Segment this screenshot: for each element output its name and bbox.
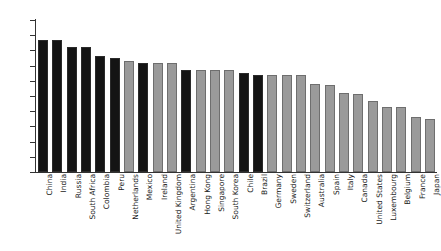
x-axis-label-text: Brazil — [261, 174, 269, 195]
x-axis-label: Sweden — [290, 144, 298, 174]
x-axis-label-text: United States — [376, 174, 384, 225]
x-axis-label-text: Hong Kong — [204, 174, 212, 215]
x-axis-label-text: Russia — [75, 174, 83, 198]
y-axis-tick-label-wrap: 100 — [0, 20, 35, 21]
y-axis-tick-label-wrap: 10 — [0, 157, 35, 158]
y-axis-tick-label-wrap: 80 — [0, 50, 35, 51]
x-axis-label: Argentina — [189, 137, 197, 174]
x-axis-label-text: China — [46, 174, 54, 195]
y-axis-tick-label-wrap: 0 — [0, 172, 35, 173]
x-axis-label-text: Germany — [275, 174, 283, 208]
x-axis-label: Colombia — [103, 139, 111, 174]
bar — [52, 40, 62, 172]
y-axis-tick-label-wrap: 20 — [0, 142, 35, 143]
x-axis-label-text: Spain — [333, 174, 341, 195]
x-axis-label: Japan — [433, 153, 441, 174]
x-axis-label: Italy — [347, 158, 355, 174]
x-axis-label-text: United Kingdom — [175, 174, 183, 234]
x-axis-label-text: Switzerland — [304, 174, 312, 218]
x-axis-label-text: India — [60, 174, 68, 192]
x-axis-label-text: Ireland — [161, 174, 169, 200]
y-axis-tick-label-wrap: 60 — [0, 81, 35, 82]
x-axis-label-text: South Africa — [89, 174, 97, 220]
x-axis-label: Canada — [361, 145, 369, 174]
x-axis-label-text: Italy — [347, 174, 355, 190]
y-axis-tick-label-wrap: 30 — [0, 126, 35, 127]
x-axis-label-text: Sweden — [290, 174, 298, 204]
x-axis-label-text: Belgium — [404, 174, 412, 205]
x-axis-label: Australia — [318, 141, 326, 174]
y-axis-tick-label-wrap: 40 — [0, 111, 35, 112]
x-axis-label-text: Netherlands — [132, 174, 140, 220]
x-axis-label: Mexico — [146, 148, 154, 174]
x-axis-label: United Kingdom — [175, 114, 183, 174]
x-axis-label-text: Singapore — [218, 174, 226, 212]
x-axis-label: South Korea — [232, 129, 240, 174]
x-axis-label: France — [419, 149, 427, 174]
x-axis-label-text: Mexico — [146, 174, 154, 200]
y-axis-tick-label-wrap: 90 — [0, 35, 35, 36]
x-axis-label: Netherlands — [132, 128, 140, 174]
x-axis-label-text: Colombia — [103, 174, 111, 209]
y-axis-tick-label-wrap: 70 — [0, 66, 35, 67]
x-axis-label-text: Peru — [118, 174, 126, 191]
x-axis-label-text: Luxembourg — [390, 174, 398, 221]
x-axis-label-text: Japan — [433, 174, 441, 195]
x-axis-label-text: South Korea — [232, 174, 240, 219]
bar-chart: 0102030405060708090100 ChinaIndiaRussiaS… — [0, 0, 441, 251]
x-axis-label: Russia — [75, 150, 83, 174]
x-axis-label: Switzerland — [304, 130, 312, 174]
x-axis-label: South Africa — [89, 128, 97, 174]
x-axis-label: Ireland — [161, 148, 169, 174]
x-axis-label: Peru — [118, 157, 126, 174]
x-axis-label: Belgium — [404, 143, 412, 174]
x-axis-label: Germany — [275, 140, 283, 174]
x-axis-label: Hong Kong — [204, 133, 212, 174]
x-axis-label: Spain — [333, 153, 341, 174]
x-axis-labels: ChinaIndiaRussiaSouth AfricaColombiaPeru… — [36, 174, 437, 251]
x-axis-label: United States — [376, 123, 384, 174]
x-axis-label-text: Argentina — [189, 174, 197, 211]
x-axis-label: Luxembourg — [390, 127, 398, 174]
x-axis-label-text: Canada — [361, 174, 369, 203]
x-axis-label: Singapore — [218, 136, 226, 174]
x-axis-label-text: Chile — [247, 174, 255, 193]
x-axis-label: China — [46, 153, 54, 174]
x-axis-label-text: Australia — [318, 174, 326, 207]
x-axis-label: Chile — [247, 155, 255, 174]
x-axis-label: India — [60, 156, 68, 174]
bar — [110, 58, 120, 172]
x-axis-label-text: France — [419, 174, 427, 199]
x-axis-label: Brazil — [261, 153, 269, 174]
y-axis-tick-label-wrap: 50 — [0, 96, 35, 97]
